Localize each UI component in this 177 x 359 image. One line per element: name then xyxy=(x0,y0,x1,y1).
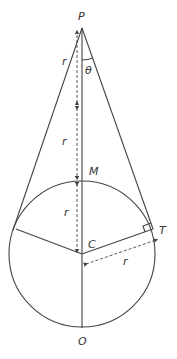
radius-left xyxy=(16,229,82,254)
geometry-diagram: P θ r r M r C T r O xyxy=(0,0,177,359)
label-T: T xyxy=(159,224,167,237)
angle-arc xyxy=(82,58,93,60)
label-P: P xyxy=(78,10,85,23)
measure-r-ct xyxy=(86,240,156,264)
label-M: M xyxy=(89,165,99,178)
label-O: O xyxy=(78,335,87,348)
label-r-middle: r xyxy=(62,135,68,148)
label-r-ct: r xyxy=(123,255,129,268)
label-r-top: r xyxy=(62,55,68,68)
label-r-lower: r xyxy=(64,206,70,219)
label-C: C xyxy=(88,238,96,251)
label-theta: θ xyxy=(85,64,92,77)
tangent-line-left xyxy=(13,28,82,230)
